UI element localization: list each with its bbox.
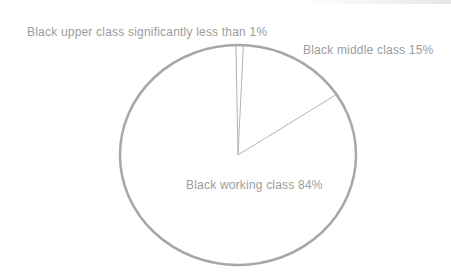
slice-divider-line	[236, 45, 238, 155]
pie-chart-figure: Black upper class significantly less tha…	[0, 0, 451, 278]
slice-label-upper-class: Black upper class significantly less tha…	[27, 25, 267, 39]
slice-divider-line	[238, 94, 337, 155]
slice-divider-line	[238, 45, 243, 155]
pie-chart-svg	[0, 0, 451, 278]
slice-label-middle-class: Black middle class 15%	[303, 43, 433, 57]
slice-label-working-class: Black working class 84%	[186, 178, 323, 192]
